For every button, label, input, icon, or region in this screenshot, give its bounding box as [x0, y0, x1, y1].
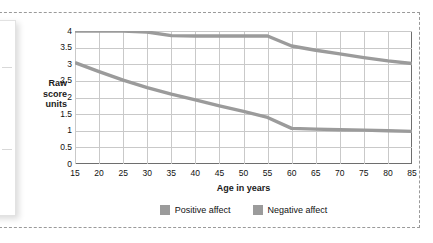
chart-legend: Positive affectNegative affect — [75, 205, 412, 215]
card-text-line — [2, 149, 12, 150]
x-axis-tick-label: 55 — [263, 168, 272, 178]
x-axis-tick-label: 30 — [142, 168, 151, 178]
x-axis-tick-label: 25 — [118, 168, 127, 178]
x-axis-tick-label: 40 — [191, 168, 200, 178]
legend-swatch — [160, 205, 170, 215]
y-axis-tick-label: 4 — [67, 27, 72, 36]
y-axis-tick-label: 1 — [67, 126, 72, 135]
x-axis-tick-label: 35 — [167, 168, 176, 178]
x-axis-tick-label: 85 — [407, 168, 416, 178]
chart-screenshot: Raw score units 00.511.522.533.54 152025… — [0, 0, 433, 243]
y-axis-tick-label: 2 — [67, 93, 72, 102]
x-axis-tick-label: 45 — [215, 168, 224, 178]
legend-item[interactable]: Negative affect — [253, 205, 328, 215]
plot-wrapper — [75, 31, 412, 164]
x-axis-tick-label: 65 — [311, 168, 320, 178]
series-line — [75, 63, 412, 132]
x-axis-tick-label: 60 — [287, 168, 296, 178]
partial-left-card — [0, 20, 16, 216]
legend-label: Negative affect — [268, 205, 328, 215]
y-axis-tick-label: 2.5 — [60, 76, 72, 85]
y-axis-tick-label: 3.5 — [60, 43, 72, 52]
x-axis-tick-label: 20 — [94, 168, 103, 178]
legend-swatch — [253, 205, 263, 215]
card-text-line — [2, 67, 12, 68]
y-axis-tick-label: 1.5 — [60, 110, 72, 119]
x-axis-tick-label: 15 — [70, 168, 79, 178]
y-axis-tick-labels: 00.511.522.533.54 — [52, 25, 72, 170]
x-axis-title: Age in years — [75, 183, 412, 193]
x-axis-tick-label: 70 — [335, 168, 344, 178]
legend-label: Positive affect — [175, 205, 231, 215]
chart-canvas — [75, 31, 412, 164]
y-axis-tick-label: 0.5 — [60, 143, 72, 152]
series-line — [75, 31, 412, 64]
x-axis-tick-label: 75 — [359, 168, 368, 178]
x-axis-tick-label: 50 — [239, 168, 248, 178]
x-axis-tick-labels: 152025303540455055606570758085 — [75, 168, 412, 180]
y-axis-tick-label: 3 — [67, 60, 72, 69]
legend-item[interactable]: Positive affect — [160, 205, 231, 215]
x-axis-tick-label: 80 — [383, 168, 392, 178]
